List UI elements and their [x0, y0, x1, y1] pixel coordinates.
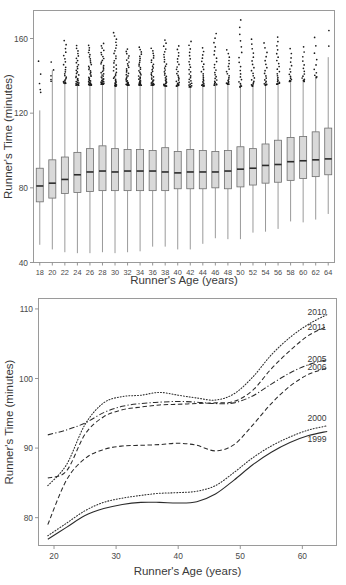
outlier-group — [176, 45, 181, 87]
x-tick-label: 60 — [298, 551, 308, 561]
outlier-group — [328, 30, 330, 47]
outlier-group — [150, 47, 154, 86]
boxplot-box — [36, 60, 43, 244]
outlier-group — [125, 48, 129, 86]
series-label-2010: 2010 — [308, 307, 327, 317]
x-tick-label: 26 — [86, 268, 94, 277]
boxplot-box — [224, 49, 231, 239]
boxplot-box — [112, 32, 119, 253]
series-line-2005 — [48, 360, 327, 435]
series-label-2006: 2006 — [308, 362, 327, 372]
x-tick-label: 54 — [261, 268, 269, 277]
outlier-group — [301, 46, 305, 82]
series-line-1999 — [48, 431, 327, 539]
boxplot-box — [325, 30, 332, 214]
x-tick-label: 62 — [312, 268, 320, 277]
y-tick-label: 80 — [19, 183, 29, 193]
x-tick-label: 24 — [73, 268, 81, 277]
y-axis-title: Runner's Time (minutes) — [3, 359, 15, 484]
x-tick-label: 58 — [286, 268, 294, 277]
boxplot-box — [237, 19, 244, 239]
y-tick-label: 90 — [24, 443, 34, 453]
outlier-group — [313, 37, 317, 79]
x-tick-label: 64 — [324, 268, 332, 277]
x-tick-label: 52 — [249, 268, 257, 277]
x-tick-label: 30 — [111, 268, 119, 277]
boxplot-box — [287, 48, 294, 222]
boxplot-box — [300, 46, 307, 222]
series-label-1999: 1999 — [308, 434, 327, 444]
outlier-group — [163, 39, 168, 87]
x-tick-label: 56 — [274, 268, 282, 277]
y-tick-label: 120 — [14, 108, 28, 118]
y-tick-label: 110 — [20, 304, 34, 314]
x-tick-label: 50 — [236, 551, 246, 561]
boxplot-svg: 4080120160182022242628303234363840424446… — [0, 0, 346, 290]
outlier-group — [138, 46, 142, 86]
x-tick-label: 30 — [111, 551, 121, 561]
boxplot-box — [86, 45, 93, 254]
outlier-group — [113, 32, 118, 87]
outlier-group — [276, 36, 280, 85]
x-tick-label: 20 — [48, 268, 56, 277]
outlier-group — [75, 45, 80, 86]
outlier-group — [226, 49, 231, 85]
boxplot-box — [61, 40, 68, 252]
boxplot-box — [249, 38, 256, 232]
x-tick-label: 18 — [36, 268, 44, 277]
x-tick-label: 28 — [98, 268, 106, 277]
x-tick-label: 20 — [49, 551, 59, 561]
y-tick-label: 80 — [24, 513, 34, 523]
series-label-2011: 2011 — [308, 322, 327, 332]
x-tick-label: 22 — [61, 268, 69, 277]
boxplot-box — [275, 36, 282, 229]
series-label-2000: 2000 — [308, 413, 327, 423]
outlier-group — [201, 47, 205, 87]
figure-root: 4080120160182022242628303234363840424446… — [0, 0, 346, 585]
boxplot-box — [162, 39, 169, 246]
x-tick-label: 60 — [299, 268, 307, 277]
y-axis-title: Runner's Time (minutes) — [2, 74, 14, 199]
y-tick-label: 40 — [19, 258, 29, 268]
x-axis-title: Runner's Age (years) — [130, 274, 238, 286]
boxplot-box — [137, 46, 144, 251]
outlier-group — [288, 48, 292, 83]
x-tick-label: 40 — [174, 551, 184, 561]
outlier-group — [38, 60, 42, 93]
outlier-group — [263, 42, 268, 86]
outlier-group — [251, 38, 256, 87]
outlier-group — [63, 40, 67, 84]
boxplot-box — [99, 43, 106, 253]
boxplot-box — [124, 48, 131, 252]
smooth-curves-panel: 8090100110203040506020102011200520062000… — [0, 290, 346, 585]
boxplot-box — [74, 45, 81, 253]
boxplot-box — [149, 47, 156, 246]
boxplot-box — [262, 42, 269, 232]
outlier-group — [213, 33, 218, 86]
boxplot-box — [199, 47, 206, 244]
outlier-group — [88, 45, 93, 87]
boxplot-box — [187, 41, 194, 250]
boxplot-box — [49, 61, 56, 249]
outlier-group — [100, 43, 105, 85]
boxplot-panel: 4080120160182022242628303234363840424446… — [0, 0, 346, 290]
outlier-group — [188, 41, 192, 88]
outlier-group — [238, 19, 242, 88]
y-tick-label: 160 — [14, 34, 28, 44]
boxplot-box — [312, 37, 319, 220]
boxplot-box — [174, 45, 181, 249]
boxplot-box — [212, 33, 219, 239]
series-line-2000 — [48, 426, 327, 536]
series-line-2010 — [48, 315, 327, 486]
y-tick-label: 100 — [19, 374, 33, 384]
series-line-2006 — [48, 368, 327, 525]
x-axis-title: Runner's Age (years) — [134, 565, 242, 577]
smooth-curves-svg: 8090100110203040506020102011200520062000… — [0, 290, 346, 585]
